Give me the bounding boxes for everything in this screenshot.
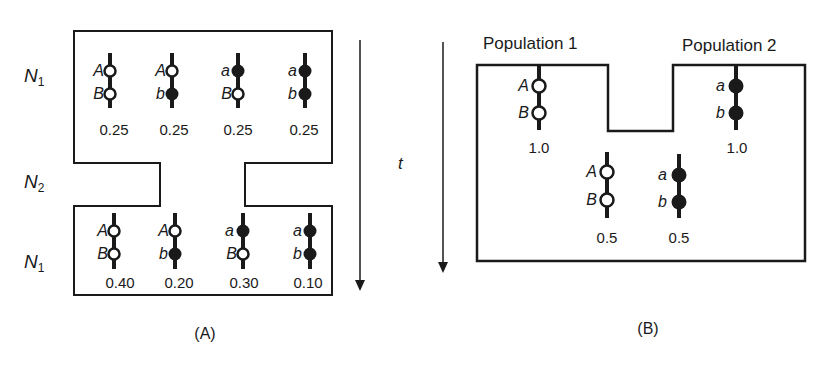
allele-label: B [97, 246, 108, 262]
allele-label: A [518, 78, 529, 94]
time-arrow-a [355, 40, 365, 291]
time-label: t [398, 156, 403, 172]
allele-label: a [658, 167, 667, 183]
allele-label: b [293, 246, 302, 262]
allele-label: B [226, 246, 237, 262]
haplotype-frequency: 1.0 [727, 140, 748, 156]
allele-label: B [221, 86, 232, 102]
chromosome-a-bottom-ab [304, 213, 317, 269]
admixture-outline [477, 65, 805, 261]
allele-label: A [93, 63, 104, 79]
allele-label: A [158, 223, 169, 239]
haplotype-frequency: 0.25 [289, 122, 318, 138]
allele-label: B [586, 192, 597, 208]
allele-label: B [518, 105, 529, 121]
chromosome-pop1-AB [533, 65, 546, 130]
diagram-canvas [0, 0, 825, 368]
allele-label: a [716, 78, 725, 94]
haplotype-frequency: 0.20 [164, 275, 193, 291]
population-2-title: Population 2 [682, 38, 777, 54]
time-arrow-b [438, 42, 448, 273]
allele-label: b [716, 105, 725, 121]
chromosome-a-top-aB [232, 53, 245, 108]
chromosome-a-top-Ab [166, 53, 179, 108]
allele-label: a [221, 63, 230, 79]
chromosome-pop2-ab [729, 65, 744, 130]
haplotype-frequency: 0.5 [669, 230, 690, 246]
allele-label: a [293, 223, 302, 239]
haplotype-frequency: 0.10 [293, 275, 322, 291]
row-label-n1-top: N1 [24, 68, 44, 90]
chromosome-a-top-AB [105, 53, 116, 108]
chromosome-a-top-ab [299, 53, 312, 108]
allele-label: A [97, 223, 108, 239]
panel-caption-a: (A) [194, 326, 215, 342]
allele-label: b [159, 246, 168, 262]
allele-label: b [658, 194, 667, 210]
haplotype-frequency: 1.0 [529, 140, 550, 156]
population-1-title: Population 1 [483, 36, 578, 52]
haplotype-frequency: 0.40 [105, 275, 134, 291]
haplotype-frequency: 0.25 [223, 122, 252, 138]
haplotype-frequency: 0.25 [159, 122, 188, 138]
allele-label: b [156, 86, 165, 102]
allele-label: B [93, 86, 104, 102]
chromosome-a-bottom-aB [237, 213, 250, 269]
allele-label: A [586, 164, 597, 180]
haplotype-frequency: 0.25 [99, 122, 128, 138]
panel-caption-b: (B) [637, 321, 658, 337]
row-label-n2: N2 [24, 174, 44, 196]
allele-label: a [225, 223, 234, 239]
chromosome-a-bottom-Ab [169, 213, 182, 269]
haplotype-frequency: 0.30 [229, 275, 258, 291]
haplotype-frequency: 0.5 [597, 230, 618, 246]
chromosome-admixed-ab [672, 154, 687, 218]
chromosome-admixed-AB [601, 152, 614, 218]
chromosome-a-bottom-AB [109, 213, 120, 269]
allele-label: a [288, 63, 297, 79]
allele-label: A [155, 63, 166, 79]
allele-label: b [288, 86, 297, 102]
row-label-n1-bottom: N1 [24, 254, 44, 276]
